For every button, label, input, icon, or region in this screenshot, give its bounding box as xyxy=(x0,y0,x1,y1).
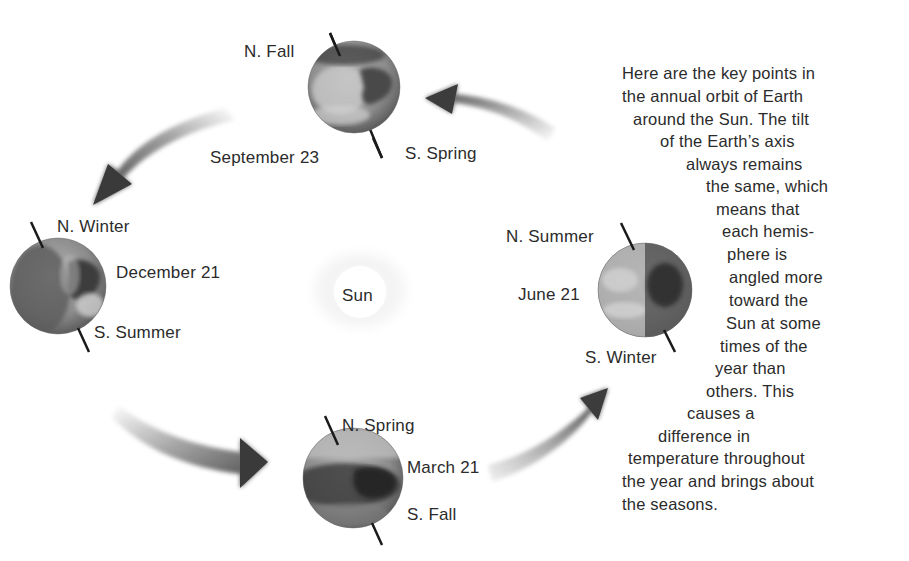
earth-globe-december xyxy=(10,222,106,352)
sun-label: Sun xyxy=(342,286,373,306)
june-south-label: S. Winter xyxy=(585,348,657,368)
march-north-label: N. Spring xyxy=(342,416,415,436)
earth-globe-september xyxy=(305,33,400,158)
earth-globe-june xyxy=(598,223,692,352)
seasons-diagram: Sun N. Fall September 23 S. Spring N. Wi… xyxy=(0,0,909,561)
september-north-label: N. Fall xyxy=(244,42,295,62)
june-date-label: June 21 xyxy=(518,285,580,305)
march-south-label: S. Fall xyxy=(407,505,457,525)
june-north-label: N. Summer xyxy=(506,227,594,247)
december-north-label: N. Winter xyxy=(57,217,130,237)
september-south-label: S. Spring xyxy=(405,144,477,164)
march-date-label: March 21 xyxy=(407,458,479,478)
december-date-label: December 21 xyxy=(116,263,220,283)
orbit-arrow-june-to-september xyxy=(425,84,555,142)
orbit-arrow-march-to-june xyxy=(488,388,608,482)
orbit-arrow-december-to-march xyxy=(112,405,268,488)
september-date-label: September 23 xyxy=(210,148,319,168)
december-south-label: S. Summer xyxy=(94,323,181,343)
